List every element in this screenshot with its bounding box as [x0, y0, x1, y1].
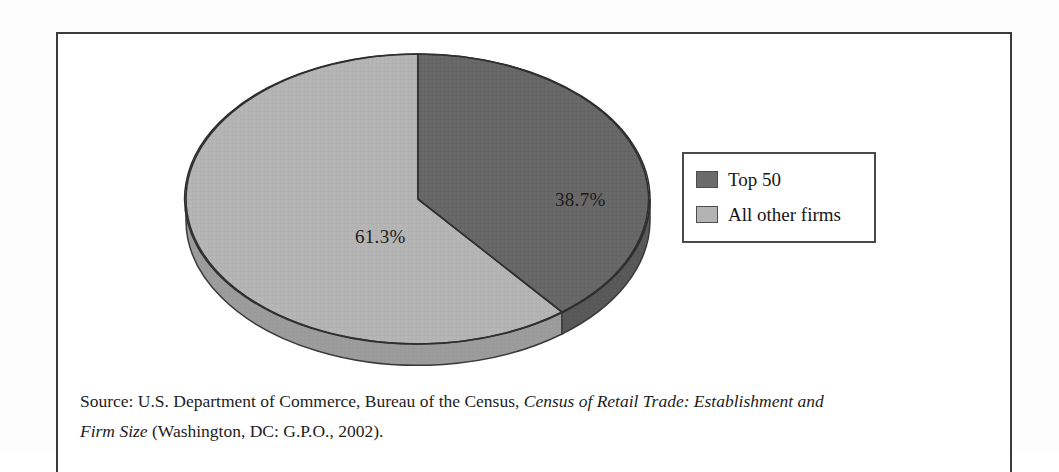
chart-plot-area: 38.7% 61.3% Top 50 All other firms	[58, 34, 1014, 364]
source-note-title-part-2: Firm Size	[80, 421, 148, 441]
pie-label-top50: 38.7%	[555, 189, 606, 211]
source-note-prefix: Source: U.S. Department of Commerce, Bur…	[80, 391, 524, 411]
pie-label-all-other: 61.3%	[355, 226, 406, 248]
pie-chart	[178, 49, 658, 379]
source-note-line-1: Source: U.S. Department of Commerce, Bur…	[80, 386, 980, 416]
pie-chart-svg	[178, 49, 658, 379]
legend-swatch-icon-top50	[696, 171, 718, 188]
legend-swatch-icon-all-other	[696, 206, 718, 223]
legend-item-all-other[interactable]: All other firms	[696, 200, 862, 229]
legend-label-all-other: All other firms	[728, 205, 841, 224]
source-note: Source: U.S. Department of Commerce, Bur…	[80, 386, 980, 446]
source-note-title-part-1: Census of Retail Trade: Establishment an…	[524, 391, 824, 411]
source-note-suffix: (Washington, DC: G.P.O., 2002).	[148, 421, 384, 441]
source-note-line-2: Firm Size (Washington, DC: G.P.O., 2002)…	[80, 416, 980, 446]
figure-frame: 38.7% 61.3% Top 50 All other firms Sourc…	[56, 32, 1012, 472]
chart-legend: Top 50 All other firms	[682, 152, 876, 243]
legend-item-top50[interactable]: Top 50	[696, 165, 862, 194]
legend-label-top50: Top 50	[728, 170, 781, 189]
